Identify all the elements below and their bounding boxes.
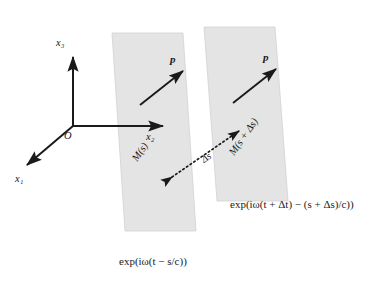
phase-label-first: exp(iω(t − s/c)) (119, 255, 187, 268)
diagram-canvas: x₃ x₂ x₁ O p p Δs M(s) M(s + Δs) exp(iω(… (0, 0, 389, 285)
phase-label-second: exp(iω(t + Δt) − (s + Δs)/c)) (230, 198, 354, 211)
vector-p-first-label: p (169, 53, 176, 65)
wavefront-diagram-svg: x₃ x₂ x₁ O p p Δs M(s) M(s + Δs) exp(iω(… (0, 0, 389, 285)
vector-p-second-label: p (262, 51, 269, 63)
plane-m-s-plus-ds (204, 27, 288, 201)
plane-m-s-plus-ds-surface (204, 27, 288, 201)
axis-label-origin: O (64, 130, 72, 141)
axis-label-x3: x₃ (55, 37, 65, 48)
axis-label-x1: x₁ (14, 173, 23, 184)
axis-label-x2: x₂ (145, 131, 155, 142)
